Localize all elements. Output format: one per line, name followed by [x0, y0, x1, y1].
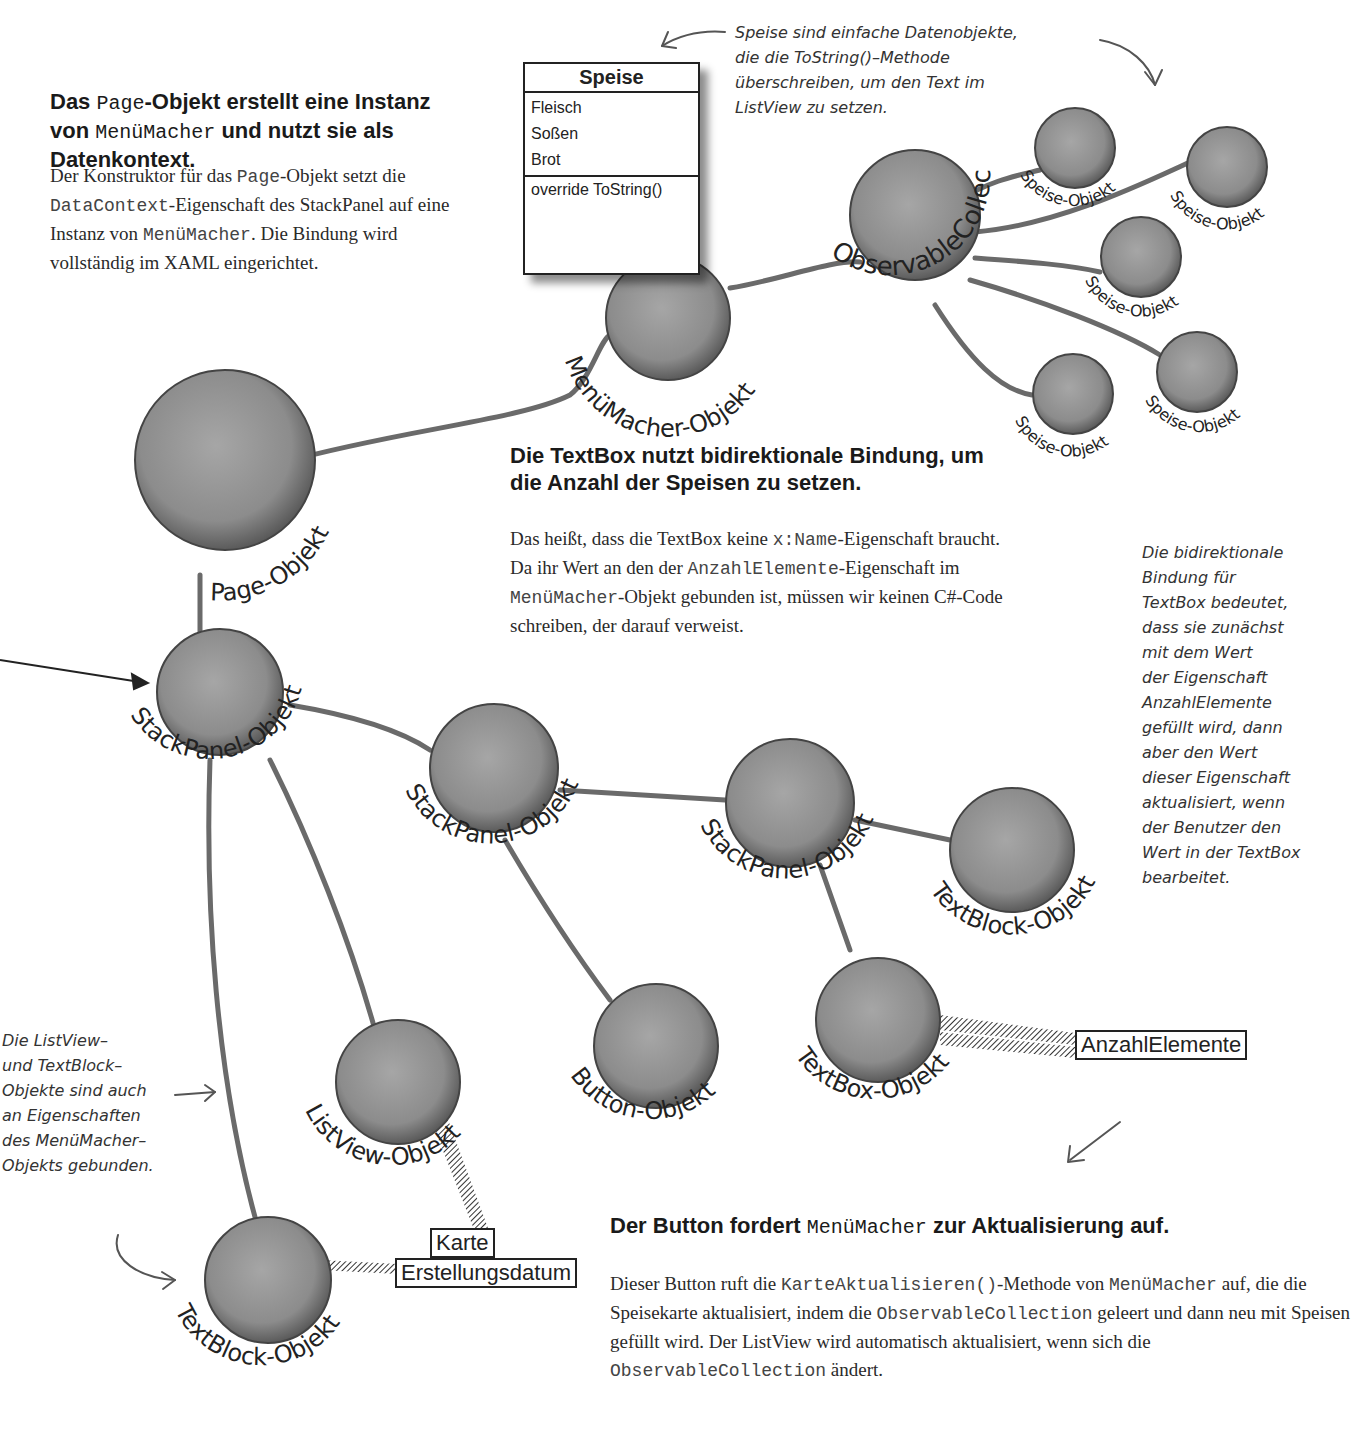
- bidirectional-annotation: Die bidirektionale Bindung für TextBox b…: [1142, 540, 1362, 890]
- speise-node-1: [1035, 108, 1115, 188]
- textblock-node-1: [950, 788, 1074, 912]
- page-object-heading: Das Page-Objekt erstellt eine Instanz vo…: [50, 88, 470, 173]
- speise-annotation: Speise sind einfache Datenobjekte, die d…: [735, 20, 1095, 120]
- uml-methods: override ToString(): [525, 177, 698, 273]
- speise-node-5: [1033, 354, 1113, 434]
- page-object-node: [135, 370, 315, 550]
- speise-uml-class: Speise Fleisch Soßen Brot override ToStr…: [523, 62, 700, 275]
- speise-node-4: [1157, 332, 1237, 412]
- uml-attribute: Soßen: [531, 121, 692, 147]
- speise-node-3: [1101, 217, 1181, 297]
- uml-attributes: Fleisch Soßen Brot: [525, 93, 698, 177]
- property-anzahlelemente: AnzahlElemente: [1075, 1030, 1247, 1060]
- property-karte: Karte: [430, 1228, 495, 1258]
- uml-class-name: Speise: [525, 64, 698, 93]
- property-erstellungsdatum: Erstellungsdatum: [395, 1258, 577, 1288]
- listview-annotation: Die ListView– und TextBlock– Objekte sin…: [2, 1028, 202, 1178]
- textbox-body: Das heißt, dass die TextBox keine x:Name…: [510, 525, 1010, 640]
- button-heading: Der Button fordert MenüMacher zur Aktual…: [610, 1212, 1170, 1241]
- button-body: Dieser Button ruft die KarteAktualisiere…: [610, 1270, 1350, 1385]
- uml-method: override ToString(): [531, 181, 692, 199]
- page-object-body: Der Konstruktor für das Page-Objekt setz…: [50, 162, 470, 277]
- uml-attribute: Brot: [531, 147, 692, 173]
- speise-node-2: [1187, 127, 1267, 207]
- uml-attribute: Fleisch: [531, 95, 692, 121]
- textbox-heading: Die TextBox nutzt bidirektionale Bindung…: [510, 442, 1010, 496]
